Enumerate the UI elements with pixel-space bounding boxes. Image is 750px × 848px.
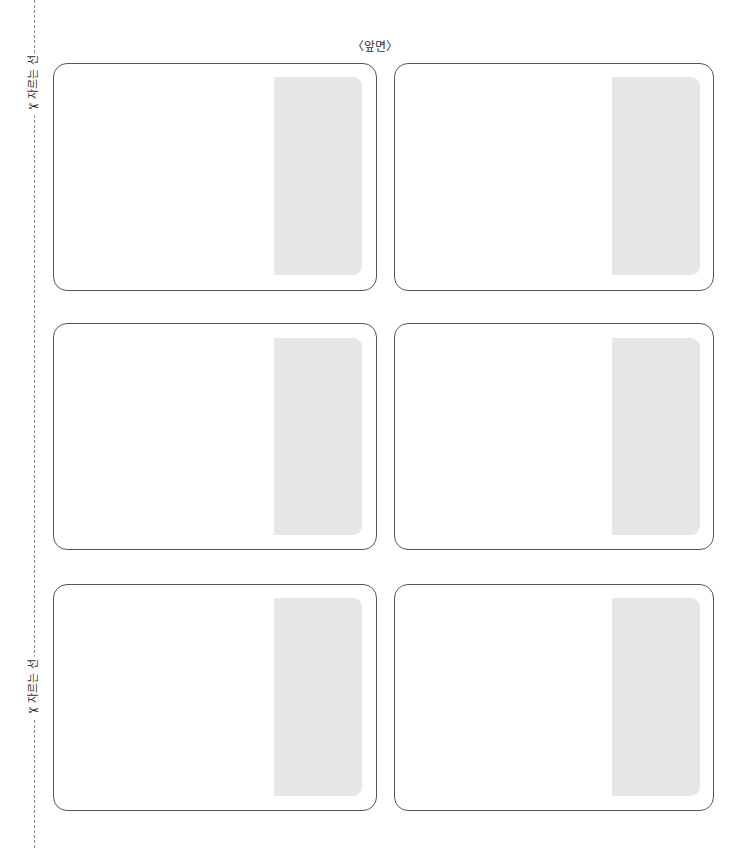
- card-gray-panel: [274, 598, 362, 796]
- cut-guide-label: 자르는 선: [28, 659, 40, 703]
- scissors-icon: ✂: [29, 101, 40, 113]
- card-row3-right: [394, 584, 714, 811]
- card-row2-right: [394, 323, 714, 550]
- card-gray-panel: [612, 598, 700, 796]
- card-gray-panel: [612, 338, 700, 535]
- scissors-icon: ✂: [29, 705, 40, 717]
- cut-line-dashed: [34, 0, 35, 848]
- card-gray-panel: [274, 338, 362, 535]
- card-gray-panel: [612, 77, 700, 275]
- card-row3-left: [53, 584, 377, 811]
- cut-guide-label: 자르는 선: [28, 55, 40, 99]
- page-title: 〈앞면〉: [340, 37, 410, 54]
- card-row2-left: [53, 323, 377, 550]
- card-row1-left: [53, 63, 377, 291]
- card-gray-panel: [274, 77, 362, 275]
- card-row1-right: [394, 63, 714, 291]
